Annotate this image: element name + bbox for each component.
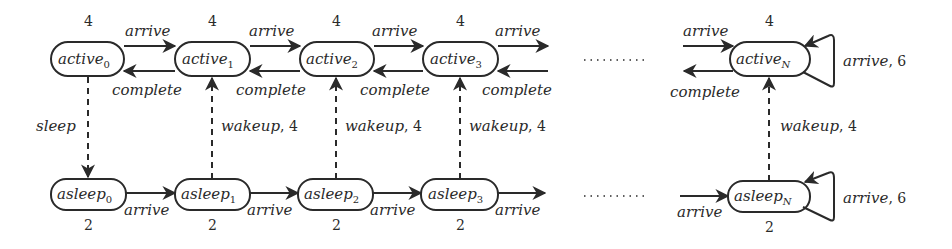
svg-text:asleep3: asleep3 xyxy=(428,185,483,205)
weight-label: 4 xyxy=(332,13,341,29)
svg-text:asleep1: asleep1 xyxy=(181,185,236,205)
weight-label: 2 xyxy=(332,217,341,233)
node-active-0: active0 4 xyxy=(51,13,124,76)
self-loop-label: arrive, 6 xyxy=(843,52,906,70)
svg-text:asleep0: asleep0 xyxy=(57,185,112,205)
complete-label: complete xyxy=(482,81,552,99)
complete-label: complete xyxy=(670,83,740,101)
self-loop-label: arrive, 6 xyxy=(843,189,906,207)
weight-label: 4 xyxy=(84,13,93,29)
svg-text:asleep2: asleep2 xyxy=(304,185,359,205)
node-asleep-0: asleep0 2 xyxy=(51,179,126,233)
wakeup-label: wakeup, 4 xyxy=(221,117,298,135)
complete-label: complete xyxy=(236,81,306,99)
node-active-2: active2 4 xyxy=(300,13,374,76)
arrive-label: arrive xyxy=(495,201,541,219)
weight-label: 2 xyxy=(208,217,217,233)
wakeup-label: wakeup, 4 xyxy=(469,117,546,135)
node-active-n: activeN 4 xyxy=(730,13,810,76)
weight-label: 2 xyxy=(765,219,774,235)
weight-label: 2 xyxy=(84,217,93,233)
node-asleep-n: asleepN 2 xyxy=(728,181,810,235)
sleep-label: sleep xyxy=(36,117,76,135)
node-active-3: active3 4 xyxy=(423,13,498,76)
node-asleep-2: asleep2 2 xyxy=(298,179,373,233)
node-asleep-1: asleep1 2 xyxy=(175,179,250,233)
complete-label: complete xyxy=(360,81,430,99)
complete-label: complete xyxy=(112,81,182,99)
arrive-label: arrive xyxy=(125,22,171,40)
weight-label: 2 xyxy=(456,217,465,233)
state-diagram: active0 4 active1 4 active2 4 active3 4 … xyxy=(0,0,952,249)
arrive-label: arrive xyxy=(249,22,295,40)
arrive-label: arrive xyxy=(677,203,723,221)
svg-text:active3: active3 xyxy=(430,50,482,70)
wakeup-label: wakeup, 4 xyxy=(780,117,857,135)
weight-label: 4 xyxy=(456,13,465,29)
weight-label: 4 xyxy=(765,13,774,29)
weight-label: 4 xyxy=(208,13,217,29)
arrive-label: arrive xyxy=(683,22,729,40)
arrive-label: arrive xyxy=(124,201,170,219)
node-asleep-3: asleep3 2 xyxy=(421,179,498,233)
node-active-1: active1 4 xyxy=(175,13,250,76)
arrive-label: arrive xyxy=(370,201,416,219)
arrive-label: arrive xyxy=(372,22,418,40)
wakeup-label: wakeup, 4 xyxy=(345,117,422,135)
svg-text:active1: active1 xyxy=(182,50,234,70)
arrive-label: arrive xyxy=(495,22,541,40)
arrive-label: arrive xyxy=(247,201,293,219)
svg-text:active2: active2 xyxy=(306,50,358,70)
svg-text:active0: active0 xyxy=(58,50,110,70)
